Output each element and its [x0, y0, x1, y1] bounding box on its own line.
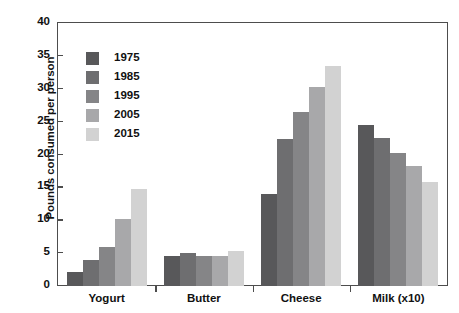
bar-milk-x10-2015: [422, 182, 438, 286]
y-tick-label: 15: [14, 179, 50, 191]
x-tick-mark: [350, 286, 351, 292]
legend-swatch: [86, 71, 99, 84]
y-tick-label: 30: [14, 81, 50, 93]
legend-swatch: [86, 128, 99, 141]
legend-swatch: [86, 52, 99, 65]
legend-swatch: [86, 90, 99, 103]
x-axis-label-cheese: Cheese: [281, 292, 322, 304]
bar-milk-x10-2005: [406, 166, 422, 286]
bar-yogurt-1975: [67, 272, 83, 286]
bar-yogurt-1985: [83, 260, 99, 286]
bar-cheese-1985: [277, 139, 293, 286]
bar-butter-2005: [212, 256, 228, 286]
bar-butter-1975: [164, 256, 180, 286]
legend-label: 1995: [114, 89, 140, 101]
bar-cheese-1975: [261, 194, 277, 286]
x-axis-label-milk-x10: Milk (x10): [372, 292, 424, 304]
bar-cheese-1995: [293, 112, 309, 286]
legend-swatch: [86, 109, 99, 122]
bar-butter-1985: [180, 253, 196, 286]
y-tick-label: 10: [14, 212, 50, 224]
y-tick-label: 0: [14, 278, 50, 290]
bar-milk-x10-1975: [358, 125, 374, 286]
bar-yogurt-1995: [99, 247, 115, 286]
y-axis-title: Pounds consumed per person: [44, 3, 56, 273]
bar-yogurt-2015: [131, 189, 147, 286]
bar-chart: Pounds consumed per person 0510152025303…: [0, 0, 459, 313]
y-tick-label: 25: [14, 114, 50, 126]
x-tick-mark: [253, 286, 254, 292]
legend-label: 1985: [114, 70, 140, 82]
bar-cheese-2005: [309, 87, 325, 286]
bar-milk-x10-1985: [374, 138, 390, 286]
y-tick-label: 20: [14, 147, 50, 159]
bar-butter-2015: [228, 251, 244, 287]
y-tick-label: 40: [14, 15, 50, 27]
legend-label: 1975: [114, 51, 140, 63]
bar-cheese-2015: [325, 66, 341, 286]
bar-milk-x10-1995: [390, 153, 406, 286]
x-tick-mark: [155, 286, 156, 292]
y-tick-label: 35: [14, 48, 50, 60]
x-axis-label-butter: Butter: [187, 292, 221, 304]
legend-label: 2015: [114, 127, 140, 139]
y-tick-label: 5: [14, 245, 50, 257]
legend-label: 2005: [114, 108, 140, 120]
bar-yogurt-2005: [115, 219, 131, 286]
bar-butter-1995: [196, 256, 212, 286]
x-axis-label-yogurt: Yogurt: [89, 292, 125, 304]
